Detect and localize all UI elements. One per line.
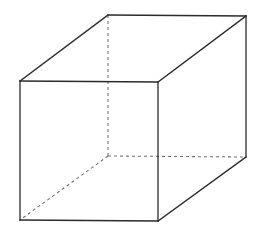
top-left-depth-edge (20, 15, 108, 81)
face-right (158, 16, 246, 221)
front-bottom-edge (20, 220, 158, 221)
cube-solid-edges-group (20, 15, 246, 221)
top-right-depth-edge (158, 16, 246, 82)
cube-faces-group (20, 15, 246, 221)
hidden-depth-edge (20, 156, 108, 220)
face-top (20, 15, 246, 82)
face-front (20, 81, 158, 221)
front-top-edge (20, 81, 158, 82)
cube-hidden-edges-group (20, 15, 246, 220)
bottom-right-depth-edge (158, 157, 246, 221)
hidden-back-bottom-edge (108, 156, 246, 157)
cube-figure-canvas (0, 0, 265, 233)
cube-wireframe-svg (0, 0, 265, 233)
back-top-edge (108, 15, 246, 16)
